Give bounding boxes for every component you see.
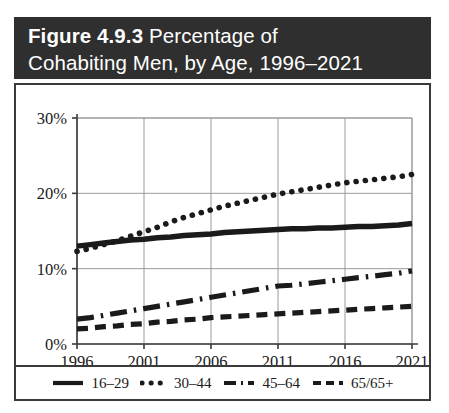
legend-label: 16–29	[91, 375, 129, 392]
legend-item-16-29[interactable]: 16–29	[51, 375, 129, 392]
chart-series-65-65-	[77, 306, 412, 329]
chart-series-layer	[77, 175, 412, 329]
legend-swatch-dashed-icon	[311, 377, 345, 389]
x-tick-label: 2011	[262, 352, 294, 365]
legend-item-65-65-[interactable]: 65/65+	[311, 375, 394, 392]
y-tick-label: 20%	[37, 184, 68, 203]
legend-item-30-44[interactable]: 30–44	[140, 375, 212, 392]
chart-x-axis-labels: 199620012006201120162021	[61, 352, 429, 365]
y-tick-label: 10%	[37, 260, 68, 279]
legend-label: 30–44	[174, 375, 212, 392]
line-chart-plot: 0%10%20%30% 199620012006201120162021	[16, 85, 429, 365]
legend-label: 65/65+	[351, 375, 394, 392]
legend-swatch-dashdot-icon	[222, 377, 256, 389]
x-tick-label: 2001	[128, 352, 161, 365]
x-tick-label: 2016	[329, 352, 362, 365]
chart-series-16-29	[77, 223, 412, 246]
legend-item-45-64[interactable]: 45–64	[222, 375, 300, 392]
legend-swatch-dotted-icon	[140, 377, 168, 389]
figure-title-line-1: Figure 4.9.3 Percentage of	[28, 22, 431, 49]
chart-series-45-64	[77, 271, 412, 319]
figure-number: Figure 4.9.3	[28, 24, 143, 47]
figure-title-line-2: Cohabiting Men, by Age, 1996–2021	[28, 49, 431, 76]
x-tick-label: 2006	[195, 352, 228, 365]
figure-title-part: Percentage of	[143, 24, 278, 47]
figure-container: Figure 4.9.3 Percentage of Cohabiting Me…	[0, 0, 449, 413]
chart-panel: 0%10%20%30% 199620012006201120162021	[14, 83, 431, 367]
legend-label: 45–64	[262, 375, 300, 392]
x-tick-label: 2021	[396, 352, 429, 365]
legend-swatch-solid-icon	[51, 377, 85, 389]
x-tick-label: 1996	[61, 352, 94, 365]
chart-legend: 16–2930–4445–6465/65+	[14, 367, 431, 401]
chart-y-axis-labels: 0%10%20%30%	[37, 109, 68, 354]
figure-header: Figure 4.9.3 Percentage of Cohabiting Me…	[14, 17, 431, 79]
y-tick-label: 30%	[37, 109, 68, 128]
